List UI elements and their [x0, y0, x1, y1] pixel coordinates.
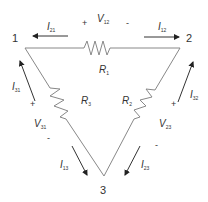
wire-r3: [25, 48, 104, 176]
arrow-i13: [72, 146, 87, 175]
wire-r2: [104, 48, 180, 176]
v12-minus: -: [126, 18, 129, 28]
v31-label: V31: [34, 118, 46, 130]
i21-label: I21: [47, 21, 56, 33]
r2-label: R2: [122, 95, 132, 107]
v23-plus: +: [171, 99, 176, 109]
arrow-i23: [125, 146, 140, 175]
node-3-label: 3: [100, 184, 106, 196]
v23-label: V23: [159, 118, 171, 130]
v12-label: V12: [97, 13, 109, 25]
v31-plus: +: [30, 99, 35, 109]
i31-label: I31: [12, 81, 21, 93]
circuit-diagram: 1 2 3 R1 R2 R3 + V12 - + V31 - + V23 - I…: [0, 0, 208, 202]
v12-plus: +: [82, 18, 87, 28]
r3-label: R3: [81, 95, 91, 107]
wire-r1: [25, 41, 180, 55]
i23-label: I23: [141, 159, 150, 171]
node-1-label: 1: [12, 32, 18, 44]
node-2-label: 2: [186, 32, 192, 44]
i13-label: I13: [60, 159, 69, 171]
arrow-i31: [20, 61, 35, 101]
r1-label: R1: [99, 64, 109, 76]
v31-minus: -: [47, 133, 50, 143]
i32-label: I32: [190, 89, 199, 101]
v23-minus: -: [155, 140, 158, 150]
i12-label: I12: [158, 21, 167, 33]
